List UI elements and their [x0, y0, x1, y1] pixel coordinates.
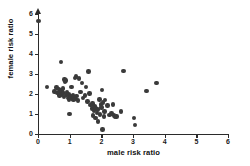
x-tick-label-3: 3 [127, 138, 139, 145]
data-point [133, 123, 137, 127]
data-point [105, 103, 109, 107]
y-tick-label-2: 2 [22, 90, 33, 97]
data-point [119, 109, 123, 113]
data-point [78, 90, 82, 94]
data-point [84, 85, 88, 89]
x-axis-title: male risk ratio [38, 148, 229, 157]
data-point [36, 19, 40, 23]
data-point [114, 114, 118, 118]
y-tick-label-0: 0 [22, 130, 33, 137]
data-point [67, 112, 71, 116]
data-point [103, 98, 107, 102]
data-point [76, 98, 80, 102]
data-point [80, 81, 84, 85]
data-point [100, 127, 104, 131]
data-point [64, 78, 68, 82]
x-tick-label-6: 6 [222, 138, 234, 145]
data-point [144, 89, 148, 93]
data-point [102, 114, 106, 118]
y-tick-label-4: 4 [22, 50, 33, 57]
y-tick-label-5: 5 [22, 30, 33, 37]
data-point [61, 86, 65, 90]
data-point [69, 85, 73, 89]
y-tick-0 [35, 134, 38, 135]
data-point [100, 88, 104, 92]
plot-area [38, 14, 228, 134]
x-tick-label-0: 0 [32, 138, 44, 145]
data-point [86, 69, 90, 73]
x-tick-label-5: 5 [190, 138, 202, 145]
data-point [121, 69, 125, 73]
x-tick-label-4: 4 [159, 138, 171, 145]
data-point [102, 109, 106, 113]
x-tick-label-1: 1 [64, 138, 76, 145]
data-point [59, 60, 63, 64]
data-point [45, 85, 49, 89]
data-point [77, 76, 81, 80]
y-axis-arrow-icon [35, 8, 41, 14]
data-point [87, 91, 91, 95]
data-point [132, 116, 136, 120]
y-axis-title: female risk ratio [6, 3, 15, 95]
y-tick-label-6: 6 [22, 10, 33, 17]
data-point [96, 119, 100, 123]
y-tick-label-3: 3 [22, 70, 33, 77]
data-point [111, 102, 115, 106]
scatter-plot-figure: 0123456 0123456 male risk ratio female r… [0, 0, 250, 166]
x-tick-label-2: 2 [95, 138, 107, 145]
data-point [154, 81, 158, 85]
y-tick-label-1: 1 [22, 110, 33, 117]
